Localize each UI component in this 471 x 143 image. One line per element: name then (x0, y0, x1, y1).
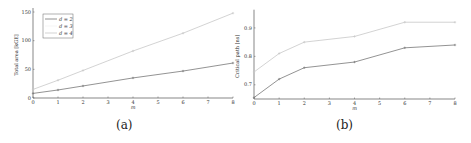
x-tick-label: 2 (81, 99, 84, 105)
x-axis-label: m (131, 104, 136, 110)
data-point-marker (57, 89, 59, 91)
x-tick-label: 3 (106, 99, 109, 105)
data-point-marker (353, 35, 355, 37)
x-tick-label: 8 (453, 100, 456, 106)
chart-b: 0123456780.70.80.9mCritical path [ns] (234, 10, 457, 111)
x-tick-label: 8 (231, 99, 234, 105)
y-tick-label: 100 (21, 37, 31, 43)
x-tick-label: 0 (252, 100, 255, 106)
y-tick-label: 0.8 (244, 53, 252, 59)
x-tick-label: 1 (56, 99, 59, 105)
legend-label: d = 4 (59, 30, 73, 36)
data-point-marker (132, 50, 134, 52)
data-point-marker (303, 67, 305, 69)
data-point-marker (182, 70, 184, 72)
data-point-marker (454, 21, 456, 23)
chart-a: 012345678050100150mTotal area [kGE]d = 2… (13, 8, 235, 110)
data-point-marker (82, 85, 84, 87)
x-tick-label: 7 (428, 100, 431, 106)
series-line (254, 45, 455, 98)
x-tick-label: 1 (278, 100, 281, 106)
legend-label: d = 3 (59, 23, 73, 29)
y-tick-label: 150 (21, 9, 31, 15)
legend-label: d = 2 (59, 16, 73, 22)
caption-b: (b) (336, 118, 353, 132)
x-tick-label: 2 (303, 100, 306, 106)
y-tick-label: 50 (25, 66, 31, 72)
x-tick-label: 5 (378, 100, 381, 106)
data-point-marker (303, 41, 305, 43)
series-line (254, 22, 455, 72)
data-point-marker (454, 44, 456, 46)
x-tick-label: 6 (403, 100, 406, 106)
caption-a: (a) (116, 118, 133, 132)
data-point-marker (132, 77, 134, 79)
y-axis-label: Total area [kGE] (13, 34, 19, 76)
data-point-marker (82, 69, 84, 71)
y-tick-label: 0.9 (244, 25, 252, 31)
data-point-marker (32, 88, 34, 90)
data-point-marker (404, 47, 406, 49)
data-point-marker (182, 32, 184, 34)
y-tick-label: 0.7 (244, 81, 252, 87)
y-axis-label: Critical path [ns] (234, 35, 241, 78)
data-point-marker (57, 79, 59, 81)
x-tick-label: 7 (206, 99, 209, 105)
x-tick-label: 5 (156, 99, 159, 105)
x-tick-label: 0 (31, 99, 34, 105)
x-tick-label: 6 (181, 99, 184, 105)
x-axis-label: m (352, 105, 357, 111)
data-point-marker (232, 12, 234, 14)
x-tick-label: 3 (328, 100, 331, 106)
data-point-marker (404, 21, 406, 23)
figure-canvas: 012345678050100150mTotal area [kGE]d = 2… (0, 0, 471, 143)
data-point-marker (32, 92, 34, 94)
y-tick-label: 0 (28, 95, 31, 101)
data-point-marker (353, 61, 355, 63)
